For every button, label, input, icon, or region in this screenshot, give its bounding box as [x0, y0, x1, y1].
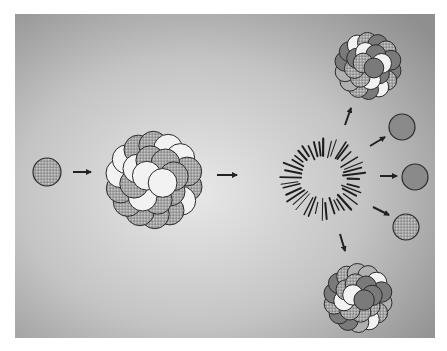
fission-diagram [0, 0, 447, 351]
fragment-bottom-nucleus [324, 264, 392, 333]
neutron-icon [33, 158, 61, 186]
target-nucleus [106, 131, 202, 228]
proton-icon [364, 58, 384, 78]
burst-ray [325, 203, 326, 219]
released-neutron-icon [389, 114, 415, 140]
proton-icon [354, 290, 374, 310]
neutron-icon [148, 169, 177, 198]
fragment-top-nucleus [335, 33, 401, 100]
diagram-canvas [0, 0, 447, 351]
released-neutron-icon [393, 214, 419, 240]
released-neutron-icon [402, 164, 428, 190]
incoming-neutron [33, 158, 61, 186]
